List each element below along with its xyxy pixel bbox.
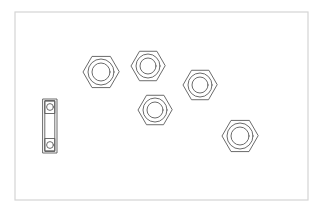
drawing-canvas xyxy=(0,0,328,215)
technical-drawing xyxy=(0,0,328,215)
